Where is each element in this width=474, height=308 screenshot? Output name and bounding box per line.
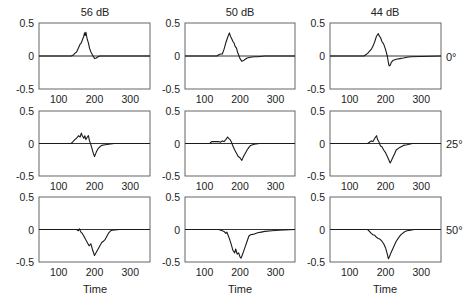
x-tick-label: 100: [50, 180, 68, 192]
x-tick-label: 100: [196, 266, 214, 278]
subplot-panel: -0.500.5100200300: [307, 105, 441, 192]
x-axis-label: Time: [228, 283, 252, 295]
subplot-panel: -0.500.5100200300: [162, 191, 295, 278]
x-axis-labels: Time Time Time: [83, 283, 397, 295]
y-tick-label: -0.5: [307, 256, 325, 268]
x-tick-label: 200: [377, 180, 395, 192]
column-titles: 56 dB 50 dB 44 dB: [81, 6, 400, 18]
x-tick-label: 200: [377, 93, 395, 105]
row-label: 50°: [446, 224, 463, 236]
data-series-line: [39, 229, 150, 256]
x-tick-label: 100: [341, 266, 359, 278]
x-tick-label: 200: [86, 180, 104, 192]
x-tick-label: 200: [231, 180, 249, 192]
x-tick-label: 300: [122, 266, 140, 278]
x-tick-label: 300: [413, 266, 431, 278]
data-series-line: [330, 136, 441, 163]
y-tick-label: 0: [28, 50, 34, 62]
data-series-line: [39, 133, 150, 156]
y-tick-label: 0.5: [310, 17, 325, 29]
x-tick-label: 300: [122, 180, 140, 192]
x-tick-label: 300: [413, 93, 431, 105]
x-tick-label: 100: [341, 180, 359, 192]
subplot-panel: -0.500.5100200300: [162, 17, 295, 105]
column-title: 50 dB: [226, 6, 255, 18]
y-tick-label: 0.5: [19, 191, 34, 203]
x-tick-label: 100: [341, 93, 359, 105]
data-series-line: [185, 230, 295, 259]
row-label: 25°: [446, 138, 463, 150]
y-tick-label: 0: [28, 138, 34, 150]
x-tick-label: 100: [50, 266, 68, 278]
y-tick-label: -0.5: [162, 170, 180, 182]
y-tick-label: -0.5: [16, 256, 34, 268]
x-tick-label: 200: [86, 93, 104, 105]
y-tick-label: -0.5: [162, 256, 180, 268]
panel-grid: -0.500.5100200300-0.500.5100200300-0.500…: [16, 17, 441, 278]
subplot-panel: -0.500.5100200300: [16, 191, 150, 278]
data-series-line: [330, 230, 441, 259]
figure-canvas: 56 dB 50 dB 44 dB 0° 25° 50° Time Time T…: [0, 0, 474, 308]
x-axis-label: Time: [373, 283, 397, 295]
x-tick-label: 200: [86, 266, 104, 278]
y-tick-label: 0.5: [165, 191, 180, 203]
data-series-line: [39, 32, 150, 58]
subplot-panel: -0.500.5100200300: [16, 17, 150, 105]
y-tick-label: 0.5: [165, 105, 180, 117]
y-tick-label: -0.5: [307, 170, 325, 182]
y-tick-label: -0.5: [16, 83, 34, 95]
y-tick-label: 0: [174, 138, 180, 150]
y-tick-label: 0: [174, 224, 180, 236]
y-tick-label: 0: [319, 224, 325, 236]
row-labels: 0° 25° 50°: [446, 51, 463, 236]
y-tick-label: 0: [319, 50, 325, 62]
data-series-line: [330, 34, 441, 66]
x-tick-label: 100: [196, 93, 214, 105]
y-tick-label: 0: [28, 224, 34, 236]
y-tick-label: 0.5: [19, 17, 34, 29]
y-tick-label: 0.5: [165, 17, 180, 29]
x-tick-label: 300: [413, 180, 431, 192]
y-tick-label: -0.5: [162, 83, 180, 95]
subplot-panel: -0.500.5100200300: [307, 17, 441, 105]
y-tick-label: 0.5: [310, 191, 325, 203]
x-tick-label: 300: [267, 180, 285, 192]
x-tick-label: 300: [267, 266, 285, 278]
data-series-line: [185, 137, 295, 160]
x-tick-label: 300: [267, 93, 285, 105]
data-series-line: [185, 33, 295, 61]
y-tick-label: -0.5: [16, 170, 34, 182]
y-tick-label: 0.5: [310, 105, 325, 117]
subplot-panel: -0.500.5100200300: [307, 191, 441, 278]
x-tick-label: 200: [231, 93, 249, 105]
column-title: 56 dB: [81, 6, 110, 18]
row-label: 0°: [446, 51, 457, 63]
x-tick-label: 300: [122, 93, 140, 105]
x-axis-label: Time: [83, 283, 107, 295]
x-tick-label: 100: [50, 93, 68, 105]
x-tick-label: 200: [377, 266, 395, 278]
y-tick-label: -0.5: [307, 83, 325, 95]
x-tick-label: 100: [196, 180, 214, 192]
y-tick-label: 0.5: [19, 105, 34, 117]
subplot-panel: -0.500.5100200300: [162, 105, 295, 192]
y-tick-label: 0: [319, 138, 325, 150]
subplot-panel: -0.500.5100200300: [16, 105, 150, 192]
y-tick-label: 0: [174, 50, 180, 62]
column-title: 44 dB: [371, 6, 400, 18]
x-tick-label: 200: [231, 266, 249, 278]
